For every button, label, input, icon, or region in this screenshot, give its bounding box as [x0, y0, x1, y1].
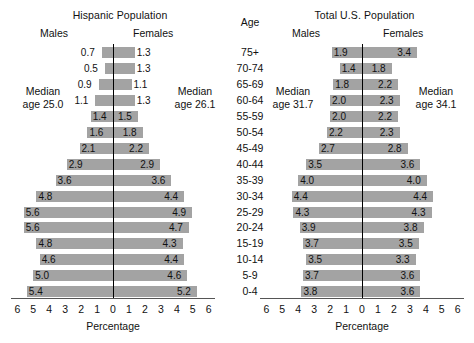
value-label-males: 0.5	[84, 62, 98, 75]
x-axis-tick-label: 5	[435, 303, 449, 315]
value-label-females: 4.3	[412, 206, 426, 219]
value-label-males: 2.0	[332, 110, 346, 123]
pyramid-row: 4.44.4	[255, 191, 474, 202]
value-label-males: 2.1	[82, 142, 96, 155]
x-axis-tick-label: 4	[291, 303, 305, 315]
pyramid-row: 4.84.4	[0, 191, 240, 202]
value-label-females: 4.0	[407, 174, 421, 187]
x-axis-tick-label: 6	[202, 303, 216, 315]
pyramid-row: 2.02.3	[255, 95, 474, 106]
pyramid-row: 3.83.6	[255, 286, 474, 297]
x-axis-tick-label: 4	[419, 303, 433, 315]
pyramid-row: 5.64.7	[0, 222, 240, 233]
value-label-females: 1.3	[137, 62, 151, 75]
pyramid-row: 1.82.2	[255, 79, 474, 90]
x-axis-tick-label: 4	[170, 303, 184, 315]
pyramid-row: 5.04.6	[0, 270, 240, 281]
value-label-males: 1.4	[342, 62, 356, 75]
pyramid-row: 4.04.0	[255, 175, 474, 186]
pyramid-row: 2.92.9	[0, 159, 240, 170]
value-label-males: 1.9	[334, 46, 348, 59]
x-axis-tick-label: 2	[74, 303, 88, 315]
pyramid-row: 3.53.3	[255, 254, 474, 265]
value-label-females: 3.3	[396, 253, 410, 266]
value-label-males: 1.4	[93, 110, 107, 123]
x-axis-tick-label: 3	[307, 303, 321, 315]
value-label-females: 3.4	[397, 46, 411, 59]
value-label-females: 2.2	[378, 110, 392, 123]
pyramid-row: 3.93.8	[255, 222, 474, 233]
value-label-females: 3.6	[151, 174, 165, 187]
value-label-females: 4.4	[164, 190, 178, 203]
value-label-females: 2.2	[129, 142, 143, 155]
x-axis-tick-label: 0	[355, 303, 369, 315]
x-axis-tick-label: 3	[154, 303, 168, 315]
x-axis-tick-label: 2	[387, 303, 401, 315]
value-label-males: 4.8	[38, 237, 52, 250]
value-label-females: 4.6	[167, 269, 181, 282]
plot-area-total-us: 1.93.41.41.81.82.22.02.32.02.22.22.32.72…	[255, 0, 474, 343]
pyramid-row: 4.84.3	[0, 238, 240, 249]
value-label-females: 2.2	[378, 78, 392, 91]
x-axis-tick-label: 5	[26, 303, 40, 315]
pyramid-row: 1.11.3	[0, 95, 240, 106]
pyramid-row: 2.22.3	[255, 127, 474, 138]
pyramid-row: 2.02.2	[255, 111, 474, 122]
value-label-females: 1.8	[123, 126, 137, 139]
value-label-females: 1.3	[137, 46, 151, 59]
value-label-males: 5.6	[26, 206, 40, 219]
chart-hispanic-population: Hispanic Population Males Females Median…	[0, 0, 240, 343]
value-label-males: 3.7	[305, 269, 319, 282]
value-label-males: 4.8	[38, 190, 52, 203]
bar-females	[114, 79, 132, 90]
value-label-females: 4.7	[169, 221, 183, 234]
pyramid-row: 3.63.6	[0, 175, 240, 186]
x-axis-tick-label: 5	[186, 303, 200, 315]
pyramid-row: 4.34.3	[255, 207, 474, 218]
x-axis-tick-label: 0	[106, 303, 120, 315]
value-label-males: 4.6	[42, 253, 56, 266]
value-label-males: 0.9	[78, 78, 92, 91]
value-label-males: 5.6	[26, 221, 40, 234]
pyramid-row: 2.72.8	[255, 143, 474, 154]
x-axis-tick-label: 5	[275, 303, 289, 315]
value-label-females: 2.3	[380, 126, 394, 139]
pyramid-row: 3.73.5	[255, 238, 474, 249]
value-label-females: 4.4	[164, 253, 178, 266]
x-axis-tick-label: 6	[259, 303, 273, 315]
value-label-males: 1.6	[89, 126, 103, 139]
pyramid-row: 1.61.8	[0, 127, 240, 138]
value-label-females: 4.4	[413, 190, 427, 203]
pyramid-row: 5.64.9	[0, 207, 240, 218]
pyramid-row: 1.41.8	[255, 63, 474, 74]
pyramid-row: 4.64.4	[0, 254, 240, 265]
x-axis-tick-label: 3	[58, 303, 72, 315]
bar-males	[95, 95, 113, 106]
value-label-females: 3.6	[400, 269, 414, 282]
population-pyramid-figure: Hispanic Population Males Females Median…	[0, 0, 474, 343]
value-label-males: 3.5	[308, 158, 322, 171]
value-label-females: 1.8	[372, 62, 386, 75]
x-axis-tick-label: 1	[371, 303, 385, 315]
value-label-females: 3.5	[399, 237, 413, 250]
value-label-males: 4.3	[295, 206, 309, 219]
value-label-males: 5.4	[29, 285, 43, 298]
value-label-females: 4.9	[172, 206, 186, 219]
value-label-males: 3.8	[303, 285, 317, 298]
value-label-females: 1.1	[134, 78, 148, 91]
bar-males	[105, 63, 113, 74]
value-label-males: 0.7	[81, 46, 95, 59]
value-label-males: 2.7	[321, 142, 335, 155]
value-label-males: 5.0	[35, 269, 49, 282]
value-label-females: 4.3	[163, 237, 177, 250]
value-label-females: 1.3	[137, 94, 151, 107]
chart-total-us-population: Total U.S. Population Males Females Medi…	[255, 0, 474, 343]
value-label-males: 1.1	[74, 94, 88, 107]
value-label-males: 2.0	[332, 94, 346, 107]
value-label-males: 4.0	[300, 174, 314, 187]
x-axis-tick-label: 1	[90, 303, 104, 315]
pyramid-row: 3.73.6	[255, 270, 474, 281]
pyramid-row: 3.53.6	[255, 159, 474, 170]
pyramid-row: 0.71.3	[0, 47, 240, 58]
x-axis-tick-label: 1	[122, 303, 136, 315]
